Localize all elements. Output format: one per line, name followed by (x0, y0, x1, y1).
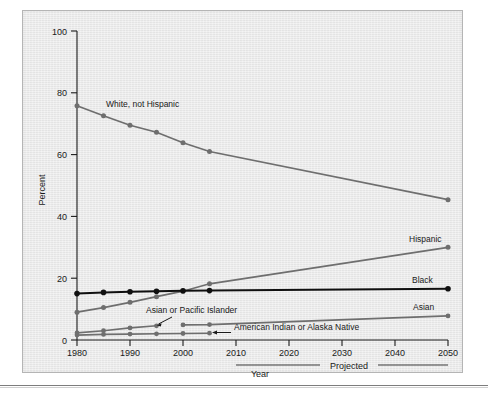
x-tick-label-2000: 2000 (173, 348, 193, 358)
series-white-not-hispanic (75, 103, 451, 202)
y-tick-label-80: 80 (57, 88, 67, 98)
y-tick-label-0: 0 (62, 336, 67, 346)
population-projection-line-chart: 100 80 60 40 20 0 Percent 1980 1990 2000… (0, 0, 488, 396)
series-label-hispanic: Hispanic (409, 234, 442, 244)
y-axis-title: Percent (37, 174, 47, 206)
american-indian-leader-arrow (212, 331, 231, 335)
series-label-asian: Asian (413, 302, 435, 312)
projected-label: Projected (330, 361, 368, 371)
x-tick-label-2010: 2010 (226, 348, 246, 358)
x-axis (77, 340, 448, 346)
series-label-white-not-hispanic: White, not Hispanic (106, 99, 180, 109)
y-tick-label-20: 20 (57, 274, 67, 284)
x-tick-label-1990: 1990 (120, 348, 140, 358)
x-tick-label-2020: 2020 (279, 348, 299, 358)
figure: 100 80 60 40 20 0 Percent 1980 1990 2000… (0, 0, 488, 396)
y-tick-label-100: 100 (52, 27, 67, 37)
series-hispanic (75, 245, 451, 315)
y-tick-label-60: 60 (57, 150, 67, 160)
x-tick-label-2030: 2030 (332, 348, 352, 358)
series-label-asian-or-pacific-islander: Asian or Pacific Islander (146, 305, 237, 315)
y-tick-label-40: 40 (57, 212, 67, 222)
page-bottom-rule-shadow (0, 387, 488, 388)
page-bottom-rule (0, 385, 488, 386)
x-axis-title: Year (251, 369, 269, 379)
series-label-black: Black (412, 275, 434, 285)
asian-pacific-leader-arrow (157, 317, 173, 327)
x-tick-label-1980: 1980 (67, 348, 87, 358)
series-label-american-indian-or-alaska-native: American Indian or Alaska Native (234, 322, 359, 332)
series-black (74, 286, 451, 297)
x-tick-label-2050: 2050 (438, 348, 458, 358)
x-tick-label-2040: 2040 (385, 348, 405, 358)
